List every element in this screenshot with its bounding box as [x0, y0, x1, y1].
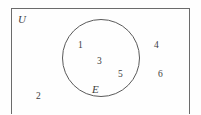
venn-diagram: U E 1 3 5 2 4 6 — [0, 0, 201, 115]
element-outside-6: 6 — [158, 70, 163, 80]
element-inside-1: 1 — [78, 41, 83, 51]
element-outside-2: 2 — [36, 92, 41, 102]
set-e-label: E — [92, 84, 99, 95]
element-inside-3: 3 — [97, 57, 102, 67]
universal-set-label: U — [18, 14, 26, 25]
element-inside-5: 5 — [118, 70, 123, 80]
element-outside-4: 4 — [154, 41, 159, 51]
